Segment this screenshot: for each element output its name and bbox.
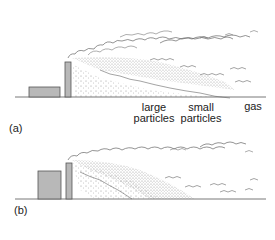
plume-top-outline — [68, 147, 225, 160]
smokestack — [65, 62, 71, 97]
label-gas: gas — [238, 101, 268, 112]
zone-label-line2: particles — [128, 113, 180, 124]
zone-label-line1: gas — [238, 101, 268, 112]
panel-b — [15, 142, 266, 199]
panel-label-b: (b) — [14, 204, 27, 216]
plume-top-outline — [68, 37, 233, 58]
label-small-particles: small particles — [175, 102, 227, 124]
panel-label-a: (a) — [9, 122, 22, 134]
smokestack — [66, 163, 72, 199]
building — [29, 87, 60, 97]
zone-label-line2: particles — [175, 113, 227, 124]
building — [38, 171, 61, 199]
label-large-particles: large particles — [128, 102, 180, 124]
panel-a — [15, 31, 266, 99]
